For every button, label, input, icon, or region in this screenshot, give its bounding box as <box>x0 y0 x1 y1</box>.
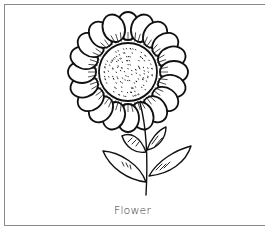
figure-caption: Flower <box>0 204 265 217</box>
flower-illustration <box>0 0 265 230</box>
flower-disc <box>99 43 157 101</box>
